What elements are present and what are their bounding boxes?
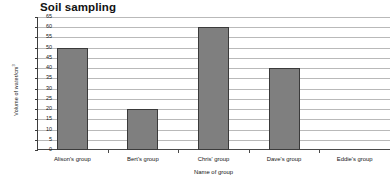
bar	[198, 27, 229, 150]
bar	[269, 68, 300, 150]
bar-chart: Soil sampling Volume of water/cm3 051015…	[0, 0, 392, 182]
x-axis-tick-labels: Alison's groupBert's groupChris' groupDa…	[37, 157, 390, 169]
x-tick-mark	[319, 150, 320, 153]
y-tick-label: 35	[30, 75, 52, 80]
gridline	[37, 17, 390, 18]
x-tick-mark	[178, 150, 179, 153]
y-axis-title: Volume of water/cm3	[11, 34, 19, 146]
x-tick-label: Eddie's group	[305, 157, 392, 163]
y-axis-title-superscript: 3	[11, 64, 16, 66]
y-tick-label: 40	[30, 65, 52, 70]
plot-area	[37, 17, 390, 150]
y-axis-title-text: Volume of water/cm	[13, 66, 19, 115]
y-tick-label: 60	[30, 24, 52, 29]
bar	[127, 109, 158, 150]
y-tick-label: 55	[30, 34, 52, 39]
chart-title: Soil sampling	[40, 1, 116, 13]
x-tick-marks	[37, 150, 390, 154]
x-axis-title: Name of group	[37, 169, 390, 175]
y-tick-label: 45	[30, 55, 52, 60]
y-tick-label: 15	[30, 116, 52, 121]
y-tick-label: 25	[30, 96, 52, 101]
y-tick-label: 10	[30, 127, 52, 132]
y-tick-label: 5	[30, 137, 52, 142]
x-tick-mark	[249, 150, 250, 153]
x-tick-mark	[108, 150, 109, 153]
y-tick-label: 50	[30, 45, 52, 50]
y-tick-label: 65	[30, 14, 52, 19]
y-tick-label: 20	[30, 106, 52, 111]
y-tick-label: 30	[30, 86, 52, 91]
bar	[57, 48, 88, 150]
